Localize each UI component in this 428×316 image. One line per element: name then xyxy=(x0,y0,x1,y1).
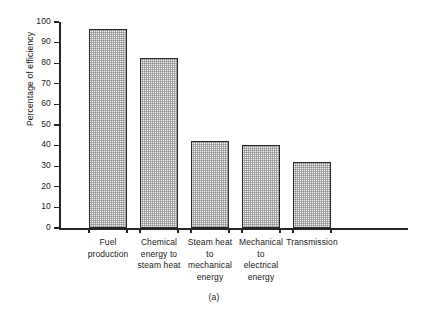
y-axis-tick-label: 70 xyxy=(41,77,51,90)
y-axis-tick: 10 xyxy=(54,207,59,208)
category-label-line: energy xyxy=(226,272,296,284)
y-axis-tick-label: 80 xyxy=(41,56,51,69)
x-axis-tick xyxy=(88,228,89,233)
x-axis-tick xyxy=(241,228,242,233)
bar xyxy=(140,58,178,228)
y-axis-tick: 80 xyxy=(54,63,59,64)
y-axis-tick: 40 xyxy=(54,145,59,146)
bar xyxy=(242,145,280,228)
y-axis-title: Percentage of efficiency xyxy=(23,0,37,197)
x-axis-tick xyxy=(330,228,331,233)
bar xyxy=(191,141,229,228)
y-axis-tick-label: 90 xyxy=(41,35,51,48)
y-axis-tick-label: 100 xyxy=(36,15,51,28)
x-axis-tick xyxy=(139,228,140,233)
plot-area: 0102030405060708090100 xyxy=(59,22,408,228)
y-axis-tick: 90 xyxy=(54,42,59,43)
x-axis-tick xyxy=(228,228,229,233)
y-axis-tick-label: 10 xyxy=(41,200,51,213)
y-axis-line xyxy=(59,22,61,228)
bar xyxy=(89,29,127,228)
x-axis-tick xyxy=(126,228,127,233)
x-axis-tick xyxy=(190,228,191,233)
figure-caption: (a) xyxy=(0,292,428,302)
x-axis-tick xyxy=(279,228,280,233)
y-axis-tick-label: 20 xyxy=(41,180,51,193)
category-label-line: to xyxy=(226,249,296,261)
y-axis-tick: 30 xyxy=(54,166,59,167)
x-axis-tick xyxy=(177,228,178,233)
y-axis-tick: 20 xyxy=(54,186,59,187)
y-axis-tick: 100 xyxy=(54,21,59,22)
x-axis-tick xyxy=(292,228,293,233)
category-label-line: Transmission xyxy=(277,237,347,249)
y-axis-tick: 70 xyxy=(54,83,59,84)
bar-chart-figure: Percentage of efficiency 010203040506070… xyxy=(0,0,428,316)
x-axis-line xyxy=(59,228,408,230)
y-axis-tick-label: 40 xyxy=(41,138,51,151)
y-axis-tick: 60 xyxy=(54,104,59,105)
category-label: Transmission xyxy=(277,237,347,249)
bar xyxy=(293,162,331,228)
y-axis-tick-label: 0 xyxy=(46,221,51,234)
y-axis-tick: 50 xyxy=(54,124,59,125)
y-axis-tick: 0 xyxy=(54,227,59,228)
category-label-line: electrical xyxy=(226,260,296,272)
y-axis-tick-label: 60 xyxy=(41,97,51,110)
y-axis-tick-label: 30 xyxy=(41,159,51,172)
y-axis-tick-label: 50 xyxy=(41,118,51,131)
